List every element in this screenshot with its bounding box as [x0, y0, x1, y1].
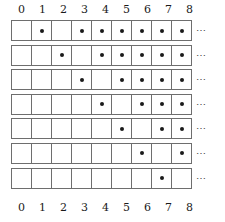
grid-cell-r3-c6[interactable] [131, 69, 152, 90]
grid-cell-r6-c2[interactable] [51, 143, 72, 164]
top-axis-label-row: 012345678 [11, 2, 200, 18]
grid-cell-r2-c4[interactable] [91, 45, 112, 66]
row-continuation-ellipsis: ⋯ [196, 94, 207, 115]
grid-cell-r3-c8[interactable] [171, 69, 192, 90]
dot-marker-icon [140, 78, 144, 82]
grid-cell-r6-c1[interactable] [31, 143, 52, 164]
grid-cell-r2-c8[interactable] [171, 45, 192, 66]
top-axis-label-4: 4 [95, 2, 116, 18]
grid-cell-r4-c3[interactable] [71, 94, 92, 115]
dot-marker-icon [80, 29, 84, 33]
dot-marker-icon [180, 151, 184, 155]
grid-row: ⋯ [11, 45, 225, 66]
grid-cell-r2-c3[interactable] [71, 45, 92, 66]
grid-cell-r7-c7[interactable] [151, 168, 172, 189]
grid-cell-r1-c6[interactable] [131, 20, 152, 41]
dot-marker-icon [60, 53, 64, 57]
grid-cell-r6-c5[interactable] [111, 143, 132, 164]
grid-cell-r1-c5[interactable] [111, 20, 132, 41]
grid-cell-r3-c0[interactable] [11, 69, 32, 90]
row-continuation-ellipsis: ⋯ [196, 45, 207, 66]
top-axis-label-0: 0 [11, 2, 32, 18]
dot-marker-icon [160, 127, 164, 131]
grid-cell-r6-c0[interactable] [11, 143, 32, 164]
grid-cell-r3-c4[interactable] [91, 69, 112, 90]
dot-grid-figure: 012345678 ⋯⋯⋯⋯⋯⋯⋯ 012345678 [0, 0, 225, 222]
bottom-axis-label-3: 3 [74, 200, 95, 216]
grid-cell-r5-c8[interactable] [171, 118, 192, 139]
grid-cell-r3-c5[interactable] [111, 69, 132, 90]
top-axis-label-7: 7 [158, 2, 179, 18]
grid-cell-r7-c6[interactable] [131, 168, 152, 189]
grid-row: ⋯ [11, 118, 225, 139]
grid-row: ⋯ [11, 20, 225, 41]
grid-cell-r4-c0[interactable] [11, 94, 32, 115]
grid-cell-r7-c8[interactable] [171, 168, 192, 189]
grid-cell-r4-c2[interactable] [51, 94, 72, 115]
grid-cell-r3-c3[interactable] [71, 69, 92, 90]
dot-marker-icon [180, 78, 184, 82]
grid-cell-r7-c4[interactable] [91, 168, 112, 189]
grid-cell-r1-c7[interactable] [151, 20, 172, 41]
grid-cell-r5-c0[interactable] [11, 118, 32, 139]
dot-marker-icon [140, 102, 144, 106]
grid-cell-r4-c1[interactable] [31, 94, 52, 115]
dot-marker-icon [160, 176, 164, 180]
grid-cell-r3-c2[interactable] [51, 69, 72, 90]
dot-marker-icon [100, 102, 104, 106]
grid-cell-r6-c4[interactable] [91, 143, 112, 164]
grid-cell-r2-c6[interactable] [131, 45, 152, 66]
dot-marker-icon [180, 29, 184, 33]
grid-cell-r7-c5[interactable] [111, 168, 132, 189]
dot-marker-icon [120, 127, 124, 131]
grid-row: ⋯ [11, 143, 225, 164]
grid-cell-r2-c7[interactable] [151, 45, 172, 66]
top-axis-label-1: 1 [32, 2, 53, 18]
grid-cell-r6-c8[interactable] [171, 143, 192, 164]
grid-cell-r1-c4[interactable] [91, 20, 112, 41]
grid-body: ⋯⋯⋯⋯⋯⋯⋯ [11, 20, 225, 192]
grid-cell-r2-c5[interactable] [111, 45, 132, 66]
grid-cell-r3-c1[interactable] [31, 69, 52, 90]
grid-cell-r1-c0[interactable] [11, 20, 32, 41]
grid-cell-r7-c0[interactable] [11, 168, 32, 189]
grid-cell-r5-c6[interactable] [131, 118, 152, 139]
grid-cell-r6-c6[interactable] [131, 143, 152, 164]
bottom-axis-label-4: 4 [95, 200, 116, 216]
grid-cell-r1-c2[interactable] [51, 20, 72, 41]
grid-cell-r6-c7[interactable] [151, 143, 172, 164]
grid-cell-r4-c5[interactable] [111, 94, 132, 115]
top-axis-label-6: 6 [137, 2, 158, 18]
grid-cell-r7-c1[interactable] [31, 168, 52, 189]
grid-cell-r1-c1[interactable] [31, 20, 52, 41]
bottom-axis-label-5: 5 [116, 200, 137, 216]
grid-cell-r4-c7[interactable] [151, 94, 172, 115]
grid-cell-r7-c3[interactable] [71, 168, 92, 189]
grid-cell-r4-c8[interactable] [171, 94, 192, 115]
grid-row: ⋯ [11, 94, 225, 115]
grid-cell-r5-c4[interactable] [91, 118, 112, 139]
grid-cell-r2-c0[interactable] [11, 45, 32, 66]
grid-cell-r6-c3[interactable] [71, 143, 92, 164]
grid-cell-r7-c2[interactable] [51, 168, 72, 189]
grid-cell-r4-c6[interactable] [131, 94, 152, 115]
top-axis-label-5: 5 [116, 2, 137, 18]
grid-cell-r2-c1[interactable] [31, 45, 52, 66]
row-continuation-ellipsis: ⋯ [196, 168, 207, 189]
grid-cell-r5-c3[interactable] [71, 118, 92, 139]
grid-cell-r1-c8[interactable] [171, 20, 192, 41]
dot-marker-icon [120, 78, 124, 82]
grid-cell-r2-c2[interactable] [51, 45, 72, 66]
grid-row: ⋯ [11, 69, 225, 90]
grid-cell-r1-c3[interactable] [71, 20, 92, 41]
top-axis-label-3: 3 [74, 2, 95, 18]
dot-marker-icon [180, 102, 184, 106]
dot-marker-icon [100, 29, 104, 33]
grid-cell-r5-c1[interactable] [31, 118, 52, 139]
grid-cell-r5-c7[interactable] [151, 118, 172, 139]
grid-cell-r3-c7[interactable] [151, 69, 172, 90]
grid-cell-r5-c2[interactable] [51, 118, 72, 139]
grid-cell-r4-c4[interactable] [91, 94, 112, 115]
dot-marker-icon [100, 53, 104, 57]
grid-cell-r5-c5[interactable] [111, 118, 132, 139]
